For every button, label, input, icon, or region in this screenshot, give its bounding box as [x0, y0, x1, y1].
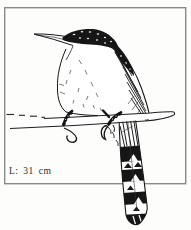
branch-sketch-dashes	[7, 115, 46, 118]
length-label: L: 31 cm	[9, 166, 51, 176]
figure-panel: L: 31 cm	[0, 0, 191, 230]
bird-illustration	[0, 0, 191, 230]
